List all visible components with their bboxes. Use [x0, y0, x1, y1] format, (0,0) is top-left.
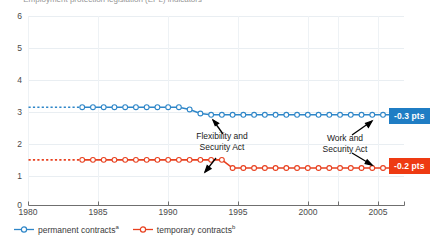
data-point: [284, 166, 289, 171]
data-point: [327, 166, 332, 171]
plot-area: [0, 0, 434, 237]
data-point: [187, 157, 192, 162]
annotation-flexibility-line2: Security Act: [200, 142, 245, 152]
data-point: [370, 166, 375, 171]
x-axis-line: [29, 202, 405, 206]
data-point: [166, 157, 171, 162]
data-point: [381, 112, 386, 117]
data-point: [166, 105, 171, 110]
data-point: [177, 157, 182, 162]
annotation-work-line2: Security Act: [323, 144, 368, 154]
data-point: [112, 157, 117, 162]
data-point: [359, 112, 364, 117]
legend-label-temporary: temporary contractsb: [157, 224, 235, 234]
data-point: [101, 157, 106, 162]
data-point: [348, 112, 353, 117]
data-point: [144, 157, 149, 162]
data-point: [338, 166, 343, 171]
legend-label-permanent: permanent contractsa: [38, 224, 119, 234]
data-point: [295, 112, 300, 117]
data-point: [338, 112, 343, 117]
annotation-flexibility-line1: Flexibility and: [196, 131, 248, 141]
annotation-flexibility-and-security-act: Flexibility and Security Act: [176, 131, 268, 153]
annotation-work-and-security-act: Work and Security Act: [306, 133, 384, 155]
data-point: [219, 112, 224, 117]
data-point: [305, 112, 310, 117]
data-point: [295, 166, 300, 171]
legend-marker-permanent-icon: [14, 225, 34, 234]
data-point: [112, 105, 117, 110]
data-point: [359, 166, 364, 171]
chart-legend: permanent contractsa temporary contracts…: [14, 224, 235, 234]
data-point: [134, 105, 139, 110]
data-point: [262, 166, 267, 171]
data-point: [177, 105, 182, 110]
series-temporary-contracts: [29, 157, 407, 170]
annotation-work-line1: Work and: [327, 133, 363, 143]
data-point: [80, 157, 85, 162]
data-point: [262, 112, 267, 117]
data-point: [316, 166, 321, 171]
data-point: [219, 157, 224, 162]
data-point: [348, 166, 353, 171]
data-point: [123, 105, 128, 110]
data-point: [144, 105, 149, 110]
data-point: [252, 112, 257, 117]
data-point: [209, 112, 214, 117]
data-point: [91, 157, 96, 162]
epl-line-chart: Employment protection legislation (EPL) …: [0, 0, 434, 237]
legend-item-permanent-contracts[interactable]: permanent contractsa: [14, 224, 119, 234]
data-point: [284, 112, 289, 117]
series-permanent-contracts: [29, 105, 407, 117]
data-point: [123, 157, 128, 162]
data-point: [241, 112, 246, 117]
data-point: [230, 166, 235, 171]
badge-permanent-delta: -0.3 pts: [389, 108, 430, 124]
data-point: [155, 157, 160, 162]
data-point: [381, 166, 386, 171]
data-point: [134, 157, 139, 162]
legend-marker-temporary-icon: [133, 225, 153, 234]
data-point: [316, 112, 321, 117]
data-point: [101, 105, 106, 110]
data-point: [187, 107, 192, 112]
data-point: [252, 166, 257, 171]
data-point: [230, 112, 235, 117]
data-point: [91, 105, 96, 110]
badge-temporary-delta: -0.2 pts: [389, 158, 430, 174]
data-point: [80, 105, 85, 110]
data-point: [327, 112, 332, 117]
legend-item-temporary-contracts[interactable]: temporary contractsb: [133, 224, 235, 234]
data-point: [370, 112, 375, 117]
data-point: [305, 166, 310, 171]
data-point: [198, 157, 203, 162]
data-point: [241, 166, 246, 171]
data-point: [198, 111, 203, 116]
data-point: [155, 105, 160, 110]
data-point: [273, 112, 278, 117]
data-point: [273, 166, 278, 171]
